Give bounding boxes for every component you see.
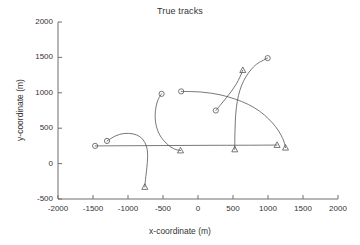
track-track-2 bbox=[104, 133, 147, 189]
x-tick-label: 500 bbox=[213, 204, 253, 213]
track-path bbox=[107, 133, 148, 187]
track-track-6 bbox=[213, 67, 246, 113]
x-tick-label: 2000 bbox=[318, 204, 358, 213]
series-group bbox=[93, 56, 289, 190]
x-tick-label: 1500 bbox=[283, 204, 323, 213]
axes bbox=[58, 22, 338, 199]
track-path bbox=[235, 58, 268, 149]
figure: True tracks -5000500100015002000 -2000-1… bbox=[0, 0, 360, 245]
x-tick-label: 0 bbox=[178, 204, 218, 213]
track-path bbox=[181, 91, 285, 147]
x-tick-label: -2000 bbox=[38, 204, 78, 213]
track-track-1 bbox=[93, 142, 281, 149]
track-track-3 bbox=[155, 91, 183, 153]
track-path bbox=[216, 70, 243, 110]
track-path bbox=[95, 145, 277, 146]
y-tick-label: -500 bbox=[19, 194, 53, 203]
x-tick-label: 1000 bbox=[248, 204, 288, 213]
x-tick-label: -1000 bbox=[108, 204, 148, 213]
x-axis-label: x-coordinate (m) bbox=[0, 226, 360, 236]
end-marker-triangle bbox=[274, 142, 280, 148]
y-axis-label: y-coordinate (m) bbox=[15, 50, 25, 170]
x-tick-label: -1500 bbox=[73, 204, 113, 213]
track-path bbox=[155, 94, 180, 151]
y-tick-label: 2000 bbox=[19, 17, 53, 26]
axis-spines bbox=[58, 22, 338, 199]
track-track-4 bbox=[179, 89, 289, 150]
x-tick-label: -500 bbox=[143, 204, 183, 213]
track-track-5 bbox=[232, 56, 271, 152]
